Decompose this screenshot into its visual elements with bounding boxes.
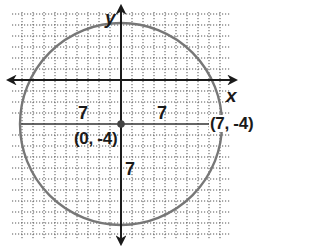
y-axis-label: y (105, 8, 116, 27)
radius-label-left: 7 (78, 104, 88, 122)
radius-label-down: 7 (125, 160, 135, 178)
radius-label-right: 7 (157, 104, 167, 122)
circle-point-label: (7, -4) (209, 115, 254, 132)
center-point-label: (0, -4) (74, 130, 117, 147)
center-point (117, 120, 125, 128)
x-axis-label: x (226, 86, 237, 105)
